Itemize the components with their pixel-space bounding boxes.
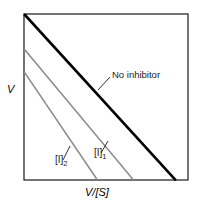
y-axis-label: V: [7, 84, 14, 95]
plot-canvas: [0, 0, 197, 207]
x-axis-label: V/[S]: [85, 187, 109, 198]
curve-label-inhibitor-2-subscript: 2: [63, 159, 67, 168]
curve-label-inhibitor-1: [I]1: [94, 148, 107, 158]
curve-label-inhibitor-2: [I]2: [55, 155, 68, 165]
curve-label-no-inhibitor: No inhibitor: [112, 70, 160, 80]
curve-label-inhibitor-1-subscript: 1: [102, 152, 106, 161]
eadie-hofstee-plot-figure: V V/[S] No inhibitor [I]2 [I]1: [0, 0, 197, 207]
